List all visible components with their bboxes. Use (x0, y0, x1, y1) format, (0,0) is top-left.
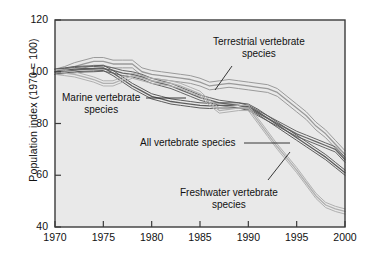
annotation-marine-line2: species (62, 104, 140, 116)
line-chart-svg (0, 0, 367, 259)
x-tick-label-1985: 1985 (180, 231, 220, 243)
x-tick-label-1980: 1980 (132, 231, 172, 243)
annotation-marine-line1: Marine vertebrate (62, 92, 140, 104)
y-tick-label-60: 60 (18, 168, 48, 180)
y-tick-label-100: 100 (18, 65, 48, 77)
x-tick-label-1995: 1995 (277, 231, 317, 243)
x-tick-label-1970: 1970 (35, 231, 75, 243)
annotation-freshwater-line2: species (180, 199, 278, 211)
x-tick-label-2000: 2000 (325, 231, 365, 243)
annotation-marine: Marine vertebrate species (62, 92, 140, 116)
x-tick-label-1975: 1975 (83, 231, 123, 243)
chart-figure: Population index (1970 = 100) 1201008060… (0, 0, 367, 259)
y-tick-label-80: 80 (18, 117, 48, 129)
annotation-all: All vertebrate species (140, 137, 236, 149)
annotation-freshwater: Freshwater vertebrate species (180, 187, 278, 211)
annotation-all-line1: All vertebrate species (140, 137, 236, 149)
x-tick-label-1990: 1990 (228, 231, 268, 243)
annotation-terrestrial: Terrestrial vertebrate species (213, 36, 305, 60)
annotation-terrestrial-line1: Terrestrial vertebrate (213, 36, 305, 48)
annotation-freshwater-line1: Freshwater vertebrate (180, 187, 278, 199)
annotation-terrestrial-line2: species (213, 48, 305, 60)
y-tick-label-120: 120 (18, 13, 48, 25)
